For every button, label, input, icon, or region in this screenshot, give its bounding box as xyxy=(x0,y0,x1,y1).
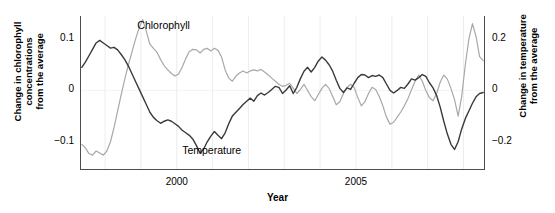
y-tick-left: −0.1 xyxy=(32,135,74,146)
series-annotation: Chlorophyll xyxy=(137,19,190,31)
y-axis-label-right: Change in temperature from the average xyxy=(517,0,539,141)
y-tick-right: −0.2 xyxy=(492,135,534,146)
y-tick-right: 0.2 xyxy=(492,32,534,43)
y-axis-label-left: Change in chlorophyll concentrations fro… xyxy=(12,0,45,147)
plot-area xyxy=(80,16,485,170)
x-tick: 2005 xyxy=(326,176,386,187)
y-tick-left: 0 xyxy=(32,83,74,94)
x-tick: 2000 xyxy=(147,176,207,187)
y-tick-right: 0 xyxy=(492,83,534,94)
series-annotation: Temperature xyxy=(182,144,241,156)
x-axis-label: Year xyxy=(0,192,555,203)
chart-figure: Change in chlorophyll concentrations fro… xyxy=(0,0,555,213)
plot-frame xyxy=(80,16,485,170)
y-tick-left: 0.1 xyxy=(32,32,74,43)
